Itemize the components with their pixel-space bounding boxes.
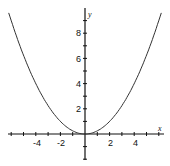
y-axis-label: y bbox=[87, 10, 92, 19]
y-tick-label: 8 bbox=[76, 28, 81, 38]
y-tick-label: 4 bbox=[76, 79, 81, 89]
x-tick-label: -4 bbox=[33, 138, 41, 148]
parabola-chart: -4 -2 2 4 2 4 6 8 x y bbox=[0, 0, 170, 166]
x-tick-label: 4 bbox=[133, 138, 138, 148]
x-axis-label: x bbox=[157, 124, 162, 133]
y-tick-label: 6 bbox=[76, 54, 81, 64]
x-tick-label: -2 bbox=[57, 138, 65, 148]
x-tick-label: 2 bbox=[108, 138, 113, 148]
y-tick-label: 2 bbox=[76, 104, 81, 114]
